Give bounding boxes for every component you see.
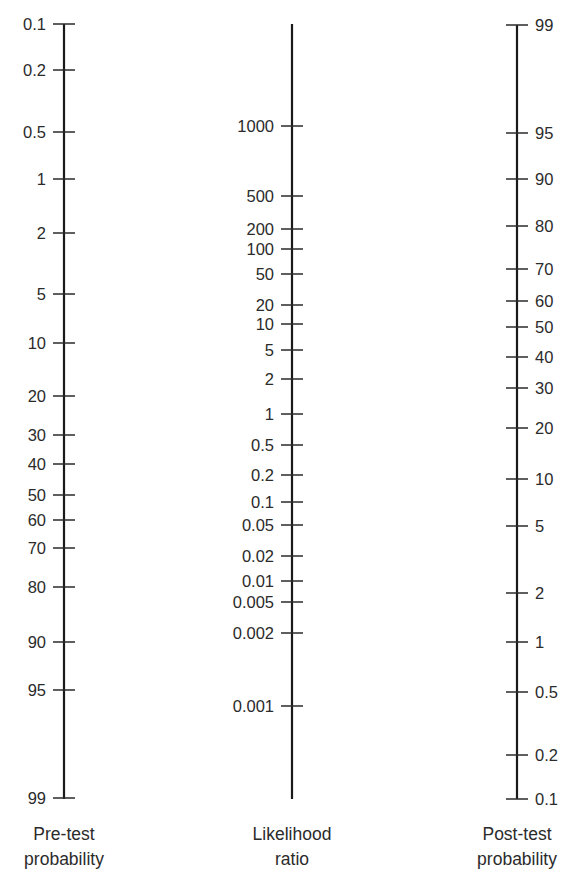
- posttest-tick-label: 1: [535, 633, 544, 651]
- posttest-tick-label: 99: [535, 16, 553, 34]
- posttest-axis-title: probability: [477, 849, 557, 869]
- posttest-probability-axis: 99959080706050403020105210.50.20.1Post-t…: [477, 16, 558, 869]
- likelihood-tick-label: 0.001: [233, 697, 274, 715]
- posttest-tick-label: 95: [535, 124, 553, 142]
- pretest-tick-label: 50: [28, 486, 46, 504]
- pretest-tick-label: 0.5: [23, 123, 46, 141]
- posttest-tick-label: 90: [535, 170, 553, 188]
- likelihood-ratio-axis: 10005002001005020105210.50.20.10.050.020…: [233, 24, 332, 869]
- likelihood-tick-label: 500: [246, 187, 274, 205]
- pretest-tick-label: 95: [28, 681, 46, 699]
- pretest-tick-label: 10: [28, 334, 46, 352]
- likelihood-tick-label: 1000: [237, 117, 274, 135]
- pretest-probability-axis: 0.10.20.51251020304050607080909599Pre-te…: [23, 15, 104, 869]
- pretest-tick-label: 40: [28, 455, 46, 473]
- likelihood-tick-label: 2: [265, 370, 274, 388]
- pretest-tick-label: 90: [28, 633, 46, 651]
- posttest-tick-label: 0.1: [535, 790, 558, 808]
- posttest-tick-label: 2: [535, 584, 544, 602]
- pretest-tick-label: 5: [37, 285, 46, 303]
- likelihood-tick-label: 0.005: [233, 593, 274, 611]
- posttest-tick-label: 5: [535, 517, 544, 535]
- likelihood-tick-label: 0.02: [242, 547, 274, 565]
- likelihood-tick-label: 20: [256, 296, 274, 314]
- posttest-tick-label: 70: [535, 260, 553, 278]
- pretest-tick-label: 99: [28, 789, 46, 807]
- pretest-tick-label: 20: [28, 387, 46, 405]
- pretest-tick-label: 2: [37, 224, 46, 242]
- pretest-tick-label: 60: [28, 511, 46, 529]
- pretest-tick-label: 0.2: [23, 61, 46, 79]
- posttest-tick-label: 10: [535, 470, 553, 488]
- likelihood-tick-label: 50: [256, 265, 274, 283]
- posttest-tick-label: 40: [535, 348, 553, 366]
- likelihood-axis-title: Likelihood: [253, 824, 332, 844]
- pretest-tick-label: 0.1: [23, 15, 46, 33]
- likelihood-tick-label: 0.01: [242, 572, 274, 590]
- likelihood-tick-label: 5: [265, 341, 274, 359]
- pretest-axis-title: probability: [24, 849, 104, 869]
- posttest-tick-label: 60: [535, 292, 553, 310]
- likelihood-tick-label: 0.5: [251, 436, 274, 454]
- pretest-tick-label: 70: [28, 539, 46, 557]
- posttest-tick-label: 30: [535, 379, 553, 397]
- pretest-tick-label: 1: [37, 170, 46, 188]
- pretest-tick-label: 30: [28, 426, 46, 444]
- likelihood-axis-title: ratio: [275, 849, 309, 869]
- posttest-tick-label: 20: [535, 419, 553, 437]
- likelihood-tick-label: 200: [246, 220, 274, 238]
- posttest-tick-label: 80: [535, 217, 553, 235]
- likelihood-tick-label: 10: [256, 315, 274, 333]
- likelihood-tick-label: 100: [246, 240, 274, 258]
- posttest-tick-label: 50: [535, 318, 553, 336]
- likelihood-tick-label: 1: [265, 405, 274, 423]
- pretest-axis-title: Pre-test: [33, 824, 94, 844]
- likelihood-tick-label: 0.05: [242, 516, 274, 534]
- posttest-tick-label: 0.5: [535, 683, 558, 701]
- posttest-axis-title: Post-test: [482, 824, 551, 844]
- fagan-nomogram: 0.10.20.51251020304050607080909599Pre-te…: [0, 0, 577, 882]
- posttest-tick-label: 0.2: [535, 746, 558, 764]
- likelihood-tick-label: 0.1: [251, 493, 274, 511]
- likelihood-tick-label: 0.2: [251, 466, 274, 484]
- pretest-tick-label: 80: [28, 578, 46, 596]
- likelihood-tick-label: 0.002: [233, 624, 274, 642]
